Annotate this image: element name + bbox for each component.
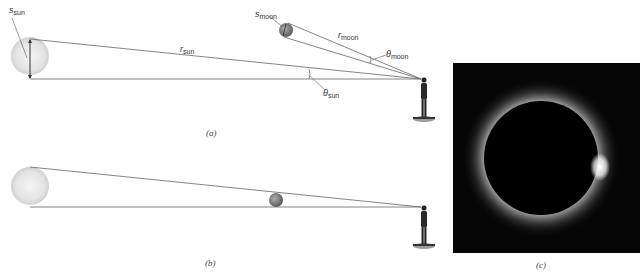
caption-c: (c) [536, 260, 546, 270]
label-s-sun: ssun [9, 5, 25, 16]
arrowhead-down [28, 75, 32, 79]
observer-figure-b [413, 206, 435, 250]
theta-sun-arc [309, 69, 310, 79]
sun-top-ray [30, 39, 421, 79]
figure-canvas: ssun rsun θsun smoon rmoon θmoon (a) [0, 0, 642, 272]
moon-top-ray [288, 23, 421, 79]
sun-disk-b [11, 167, 49, 205]
label-theta-sun: θsun [323, 88, 339, 99]
caption-b: (b) [205, 258, 216, 268]
panel-b: (b) [11, 167, 435, 268]
label-r-sun: rsun [180, 44, 194, 55]
panel-c: (c) [453, 63, 640, 270]
label-r-moon: rmoon [338, 30, 359, 41]
panel-a: ssun rsun θsun smoon rmoon θmoon (a) [9, 5, 435, 138]
theta-moon-arc [370, 56, 371, 63]
caption-a: (a) [206, 128, 217, 138]
sun-top-ray-b [30, 167, 421, 207]
theta-moon-leader [372, 55, 386, 60]
observer-figure-a [413, 78, 435, 123]
label-s-moon: smoon [255, 9, 277, 20]
moon-disk-b [269, 193, 283, 207]
label-theta-moon: θmoon [386, 49, 409, 60]
